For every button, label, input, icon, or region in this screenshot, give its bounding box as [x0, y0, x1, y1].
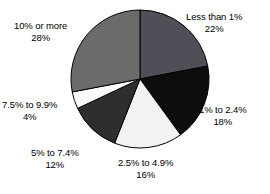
pie-label-value: 22% — [186, 23, 242, 35]
pie-label-name: 2.5% to 4.9% — [118, 157, 173, 169]
pie-label-10-or-more: 10% or more 28% — [14, 20, 67, 43]
pie-label-name: 7.5% to 9.9% — [2, 99, 57, 111]
pie-label-less-than-1: Less than 1% 22% — [186, 11, 242, 34]
pie-label-name: 1% to 2.4% — [199, 104, 247, 116]
pie-label-2-5-to-4-9: 2.5% to 4.9% 16% — [118, 157, 173, 180]
pie-label-name: 5% to 7.4% — [31, 147, 79, 159]
pie-label-1-to-2-4: 1% to 2.4% 18% — [199, 104, 247, 127]
pie-label-7-5-to-9-9: 7.5% to 9.9% 4% — [2, 99, 57, 122]
pie-label-name: 10% or more — [14, 20, 67, 32]
pie-label-5-to-7-4: 5% to 7.4% 12% — [31, 147, 79, 170]
pie-label-value: 28% — [14, 32, 67, 44]
pie-label-value: 18% — [199, 116, 247, 128]
pie-chart-figure: Less than 1% 22% 1% to 2.4% 18% 2.5% to … — [0, 0, 270, 194]
pie-label-value: 12% — [31, 159, 79, 171]
pie-label-name: Less than 1% — [186, 11, 242, 23]
pie-slice — [71, 10, 140, 92]
pie-label-value: 16% — [118, 169, 173, 181]
pie-label-value: 4% — [2, 111, 57, 123]
